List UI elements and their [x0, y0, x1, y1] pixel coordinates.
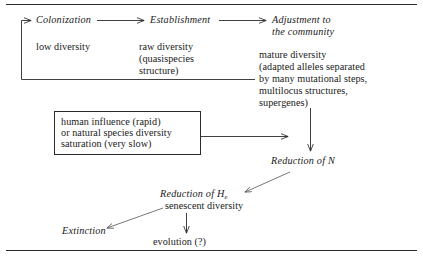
influence-box-line3: saturation (very slow) [61, 138, 200, 149]
node-mature-diversity-line4: multilocus structures, [259, 85, 348, 97]
influence-box-line1: human influence (rapid) [61, 116, 200, 127]
node-raw-diversity-line1: raw diversity [139, 41, 193, 53]
node-raw-diversity-line2: (quasispecies [139, 53, 194, 65]
node-extinction: Extinction [62, 225, 106, 237]
influence-box: human influence (rapid) or natural speci… [54, 111, 201, 155]
node-reduction-of-n: Reduction of N [271, 155, 335, 167]
reduction-of-he-text: Reduction of H [160, 188, 224, 199]
influence-box-line2: or natural species diversity [61, 127, 200, 138]
node-raw-diversity-line3: structure) [139, 65, 179, 77]
node-reduction-of-he: Reduction of He [160, 188, 228, 201]
bottom-rule [6, 250, 417, 251]
node-mature-diversity-line2: (adapted alleles separated [259, 61, 365, 73]
node-mature-diversity-line3: by many mutational steps, [259, 73, 367, 85]
node-evolution: evolution (?) [153, 236, 206, 248]
figure-canvas: Colonization Establishment Adjustment to… [0, 0, 423, 257]
node-low-diversity: low diversity [36, 41, 90, 53]
connector-reduction-of-n-to-reduction-of-he [245, 172, 290, 192]
node-mature-diversity-line5: supergenes) [259, 97, 308, 109]
node-senescent-diversity: senescent diversity [165, 200, 243, 212]
node-mature-diversity-line1: mature diversity [259, 49, 326, 61]
top-rule [6, 4, 417, 5]
node-adjustment-line2: the community [272, 26, 334, 38]
connector-senescent-to-extinction [107, 208, 163, 228]
node-adjustment-line1: Adjustment to [272, 14, 331, 26]
node-colonization: Colonization [36, 14, 91, 26]
node-establishment: Establishment [150, 14, 210, 26]
